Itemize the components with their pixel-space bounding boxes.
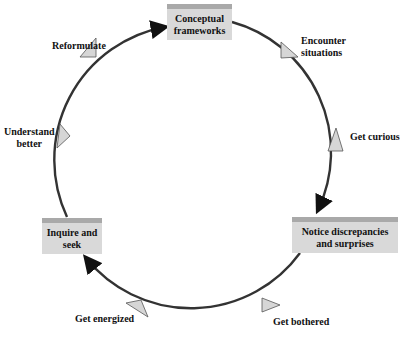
label-encounter-situations: Encounter situations bbox=[301, 35, 346, 59]
label-understand-better: Understand better bbox=[4, 126, 55, 150]
label-reformulate: Reformulate bbox=[52, 40, 106, 52]
marker-bothered bbox=[262, 298, 280, 312]
box-notice-discrepancies: Notice discrepanciesand surprises bbox=[292, 217, 398, 253]
label-get-bothered: Get bothered bbox=[273, 316, 329, 328]
box-conceptual-frameworks: Conceptualframeworks bbox=[167, 4, 232, 40]
label-get-energized: Get energized bbox=[75, 313, 134, 325]
marker-encounter bbox=[281, 42, 298, 58]
label-get-curious: Get curious bbox=[350, 131, 400, 143]
box-inquire-and-seek: Inquire andseek bbox=[42, 218, 102, 254]
